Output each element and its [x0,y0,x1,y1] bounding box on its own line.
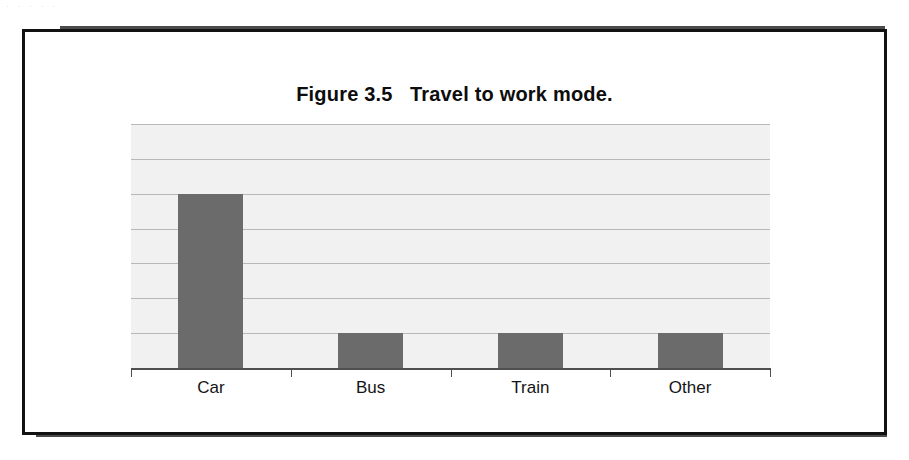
gridline [131,159,770,160]
bar-train [498,333,563,368]
bar-bus [338,333,403,368]
x-axis-label-train: Train [451,378,611,398]
plot-area [131,124,770,368]
bar-other [658,333,723,368]
x-axis-label-bus: Bus [291,378,451,398]
x-axis-tick [451,368,452,377]
x-axis-tick [610,368,611,377]
x-axis-tick [131,368,132,377]
x-axis-tick [291,368,292,377]
gridline [131,124,770,125]
chart-title: Figure 3.5 Travel to work mode. [25,83,884,106]
bar-car [178,194,243,368]
x-axis-label-car: Car [131,378,291,398]
x-axis-tick [770,368,771,377]
x-axis-label-other: Other [610,378,770,398]
scan-artifact-text: · · · · · [6,1,58,11]
